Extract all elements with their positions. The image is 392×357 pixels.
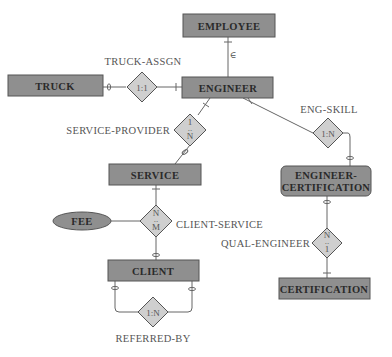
entity-service[interactable]: SERVICE [109,164,201,185]
entity-client-label: CLIENT [132,266,174,277]
entity-engineer[interactable]: ENGINEER [182,77,273,98]
attribute-fee-label: FEE [71,216,92,227]
qual-engineer-label: QUAL-ENGINEER [221,238,310,249]
relationship-client-service[interactable]: N .. M [140,205,172,237]
truck-assgn-label: TRUCK-ASSGN [105,56,182,67]
entity-certification[interactable]: CERTIFICATION [279,278,370,299]
entity-engineer-certification-label-line1: ENGINEER- [295,170,357,181]
entity-employee[interactable]: EMPLOYEE [183,14,275,37]
er-diagram-canvas: EMPLOYEE TRUCK ENGINEER SERVICE ENGINEER… [0,0,392,357]
referred-by-label: REFERRED-BY [115,333,190,344]
entity-client[interactable]: CLIENT [108,260,199,281]
entity-engineer-certification[interactable]: ENGINEER- CERTIFICATION [281,166,371,196]
client-service-label: CLIENT-SERVICE [176,219,263,230]
service-provider-label: SERVICE-PROVIDER [66,125,170,136]
attribute-fee[interactable]: FEE [53,212,111,230]
entity-certification-label: CERTIFICATION [280,284,369,295]
relationship-eng-skill[interactable]: 1:N [313,118,343,148]
client-service-card-bottom: M [152,222,160,232]
entity-engineer-certification-label-line2: CERTIFICATION [282,182,371,193]
referred-by-cardinality: 1:N [146,308,160,318]
entity-truck[interactable]: TRUCK [8,75,103,96]
relationship-service-provider[interactable]: 1 .. N [174,114,206,146]
relationship-truck-assgn[interactable]: 1:1 [127,72,157,102]
entity-truck-label: TRUCK [35,81,75,92]
entity-engineer-label: ENGINEER [199,83,258,94]
entity-employee-label: EMPLOYEE [198,21,261,32]
eng-skill-engcert-line [343,133,350,167]
entity-service-label: SERVICE [131,170,179,181]
relationship-referred-by[interactable]: 1:N [138,297,168,327]
client-referred-by-line-right [168,281,192,312]
eng-skill-cardinality: 1:N [321,129,335,139]
subtype-element-of-symbol: ∈ [230,50,237,60]
qual-engineer-card-bottom: 1 [325,244,330,254]
client-referred-by-line-left [115,281,138,312]
relationship-qual-engineer[interactable]: N .. 1 [312,228,342,258]
eng-skill-label: ENG-SKILL [300,104,358,115]
truck-assgn-cardinality: 1:1 [136,83,148,93]
service-provider-card-bottom: N [187,131,194,141]
